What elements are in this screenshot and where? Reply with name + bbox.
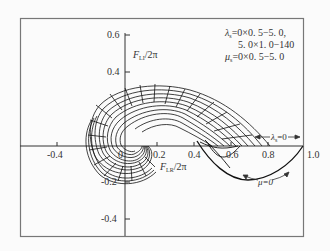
- y-tick-neg-0.4: -0.4: [101, 214, 117, 224]
- x-tick-1.0: 1.0: [307, 150, 320, 160]
- y-ticks: [125, 35, 130, 219]
- x-axis-label: FLR/2π: [160, 162, 187, 175]
- legend-line-3: μs=0×0. 5−5. 0: [225, 52, 284, 65]
- mu-zero-annotation: μ=0: [258, 177, 273, 187]
- legend-line-2: 5. 0×1. 0−140: [238, 40, 294, 50]
- y-tick-neg-0.2: -0.2: [101, 177, 117, 187]
- x-tick-0.2: 0.2: [153, 150, 166, 160]
- origin-label: 0: [118, 150, 123, 160]
- x-tick-0.4: 0.4: [188, 150, 201, 160]
- y-axis-label: FLI/2π: [133, 50, 158, 63]
- x-tick-neg-0.4: -0.4: [47, 150, 63, 160]
- y-tick-0.6: 0.6: [107, 30, 120, 40]
- x-tick-0.6: 0.6: [226, 150, 239, 160]
- x-tick-0.8: 0.8: [262, 150, 275, 160]
- y-tick-0.4: 0.4: [107, 67, 120, 77]
- lambda-zero-annotation: λs=0: [271, 132, 287, 145]
